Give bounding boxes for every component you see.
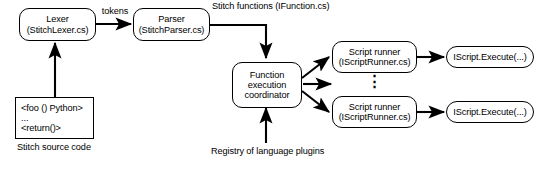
node-script-runner-top-subtitle: (IScriptRunner.cs) xyxy=(339,57,411,67)
node-lexer-title: Lexer xyxy=(46,14,68,24)
label-stitch-functions-line2: (IFunction.cs) xyxy=(275,1,329,11)
node-iscript-execute-bottom-label: IScript.Execute(...) xyxy=(453,107,527,117)
node-script-runner-top-title: Script runner xyxy=(349,47,400,57)
node-lexer[interactable]: Lexer (StitchLexer.cs) xyxy=(19,8,96,41)
node-lexer-subtitle: (StitchLexer.cs) xyxy=(27,25,89,35)
node-function-execution-coordinator[interactable]: Function execution coordinator xyxy=(232,62,302,108)
source-code-line-3: <return()> xyxy=(21,123,61,133)
edge-parser-to-coordinator xyxy=(209,25,266,58)
label-stitch-functions: Stitch functions (IFunction.cs) xyxy=(212,1,320,12)
source-code-line-1: <foo () Python> xyxy=(21,103,83,113)
label-stitch-functions-line1: Stitch functions xyxy=(212,1,273,11)
caption-stitch-source-code: Stitch source code xyxy=(6,142,102,153)
node-coordinator-line1: Function xyxy=(250,70,284,80)
node-parser[interactable]: Parser (StitchParser.cs) xyxy=(133,8,210,41)
node-stitch-source-code[interactable]: <foo () Python> ... <return()> xyxy=(15,97,94,139)
source-code-line-2: ... xyxy=(21,113,28,123)
edge-coordinator-to-runner-bottom xyxy=(302,91,329,112)
node-script-runner-bottom-subtitle: (IScriptRunner.cs) xyxy=(339,112,411,122)
node-script-runner-bottom[interactable]: Script runner (IScriptRunner.cs) xyxy=(332,96,417,128)
node-coordinator-line3: coordinator xyxy=(245,90,290,100)
caption-source-line1: Stitch xyxy=(17,142,39,152)
node-parser-subtitle: (StitchParser.cs) xyxy=(139,25,205,35)
label-registry-of-language-plugins: Registry of language plugins xyxy=(211,146,321,157)
node-script-runner-bottom-title: Script runner xyxy=(349,102,400,112)
node-iscript-execute-bottom[interactable]: IScript.Execute(...) xyxy=(446,101,534,123)
caption-source-line2: source code xyxy=(42,142,91,152)
node-iscript-execute-top-label: IScript.Execute(...) xyxy=(453,52,527,62)
edge-coordinator-to-runner-top xyxy=(302,57,329,78)
label-registry-line2: language plugins xyxy=(256,146,324,156)
label-tokens: tokens xyxy=(95,6,135,17)
node-parser-title: Parser xyxy=(158,14,184,24)
node-coordinator-line2: execution xyxy=(248,80,286,90)
ellipsis-vertical-icon: ⋮ xyxy=(358,76,390,87)
node-script-runner-top[interactable]: Script runner (IScriptRunner.cs) xyxy=(332,41,417,73)
node-iscript-execute-top[interactable]: IScript.Execute(...) xyxy=(446,46,534,68)
label-registry-line1: Registry of xyxy=(211,146,254,156)
diagram-canvas: Lexer (StitchLexer.cs) tokens Parser (St… xyxy=(0,0,544,181)
